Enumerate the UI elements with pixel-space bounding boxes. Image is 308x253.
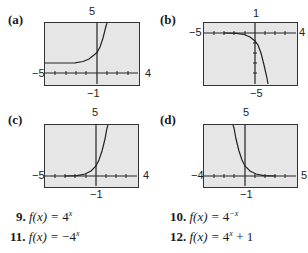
- exercise-9: 9. f(x) = 4x: [16, 209, 72, 225]
- panel-label: (c): [8, 112, 22, 128]
- graph-b: [203, 22, 298, 86]
- x-min-label: −5: [32, 169, 45, 181]
- graph-a-plot: [45, 23, 138, 84]
- graph-c: [44, 124, 139, 188]
- exercise-11: 11. f(x) = −4x: [10, 229, 80, 245]
- y-min-label: −1: [87, 87, 100, 99]
- x-min-label: −4: [191, 169, 204, 181]
- y-max-label: 5: [92, 106, 98, 118]
- y-min-label: −1: [240, 188, 253, 200]
- y-max-label: 5: [243, 106, 249, 118]
- x-max-label: 4: [143, 169, 149, 181]
- y-min-label: −1: [90, 188, 103, 200]
- panel-label: (b): [160, 12, 176, 28]
- y-max-label: 5: [89, 5, 95, 17]
- y-max-label: 1: [253, 7, 259, 19]
- y-min-label: −5: [250, 87, 263, 99]
- graph-c-plot: [45, 125, 137, 186]
- graph-d-plot: [204, 125, 296, 186]
- x-max-label: 4: [145, 67, 151, 79]
- x-min-label: −5: [32, 67, 45, 79]
- graph-b-plot: [204, 23, 296, 84]
- graph-d: [203, 124, 298, 188]
- x-max-label: 4: [299, 26, 305, 38]
- panel-label: (d): [160, 112, 176, 128]
- exercise-10: 10. f(x) = 4−x: [170, 209, 238, 225]
- panel-label: (a): [8, 12, 23, 28]
- graph-a: [44, 22, 140, 86]
- x-max-label: 5: [301, 169, 307, 181]
- x-min-label: −5: [189, 26, 202, 38]
- exercise-12: 12. f(x) = 4x + 1: [170, 229, 253, 245]
